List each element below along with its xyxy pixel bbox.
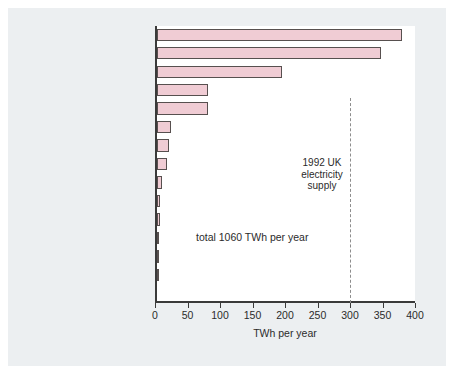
x-axis-tick [220,303,221,308]
bar-row [157,174,415,192]
x-axis-tick [188,303,189,308]
x-axis-title: TWh per year [155,327,415,339]
bar-large-scale-hydro [157,195,160,207]
chart-figure: wind offshorewind onshorecropsphotoconve… [0,0,454,374]
bar-row [157,266,415,284]
bar-photoconversion [157,84,208,96]
x-axis-tick [350,303,351,308]
bar-row [157,118,415,136]
bar-row [157,248,415,266]
x-axis-tick [383,303,384,308]
total-annotation: total 1060 TWh per year [196,231,308,243]
bar-dry-wastes-industrial [157,213,160,225]
plot-area [155,26,415,303]
bar-refuse-combustion [157,158,167,170]
bar-wind-onshore [157,47,381,59]
reference-line-label: 1992 UK electricity supply [298,157,346,192]
bar-small-scale-hydro [157,232,159,244]
bar-wet-wastes [157,250,159,262]
bar-wind-offshore [157,29,402,41]
x-axis-tick [318,303,319,308]
bar-landfill-gas [157,176,162,188]
bar-row [157,63,415,81]
reference-label-line-1: 1992 UK [298,157,346,169]
bar-row [157,81,415,99]
reference-line-1992-uk-supply [350,98,351,303]
bar-row [157,26,415,44]
bar-dry-wastes-agricultural [157,139,169,151]
x-axis-tick [285,303,286,308]
reference-label-line-2: electricity [298,169,346,181]
bar-row [157,211,415,229]
bar-wave [157,269,159,281]
bar-row [157,137,415,155]
bar-row [157,192,415,210]
bar-tidal [157,121,171,133]
x-axis-tick [155,303,156,308]
x-axis-tick-label: 400 [395,309,435,321]
bar-crops [157,66,282,78]
bar-row [157,155,415,173]
bar-photovoltaics [157,102,208,114]
reference-label-line-3: supply [298,180,346,192]
bar-row [157,285,415,303]
bar-row [157,100,415,118]
bar-row [157,44,415,62]
x-axis-tick [415,303,416,308]
x-axis-tick [253,303,254,308]
